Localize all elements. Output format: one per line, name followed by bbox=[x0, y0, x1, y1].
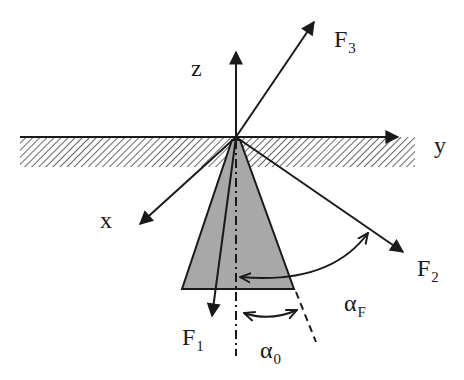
f2-label: F2 bbox=[417, 256, 439, 280]
f1-label: F1 bbox=[182, 325, 204, 349]
cone-edge-extension bbox=[296, 292, 316, 342]
alpha-0-arc bbox=[244, 310, 297, 317]
x-axis-label: x bbox=[100, 208, 112, 232]
f3-vector bbox=[236, 22, 314, 137]
force-diagram: z y x F3 F2 F1 αF α0 bbox=[0, 0, 464, 380]
alpha-0-label: α0 bbox=[260, 338, 281, 362]
surface-hatch bbox=[20, 137, 415, 167]
z-axis-label: z bbox=[191, 56, 202, 80]
y-axis-label: y bbox=[434, 133, 446, 157]
alpha-f-label: αF bbox=[344, 291, 366, 315]
f3-label: F3 bbox=[334, 27, 356, 51]
diagram-canvas bbox=[0, 0, 464, 380]
